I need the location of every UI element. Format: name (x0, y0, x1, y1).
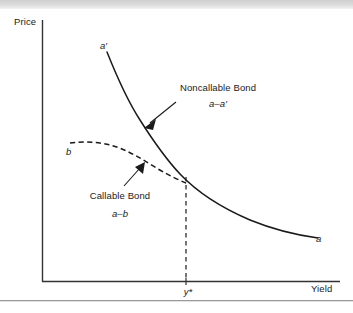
chart-canvas (0, 0, 353, 300)
figure-page: Price Yield y* a′ a b Noncallable Bond a… (0, 0, 353, 313)
annotation-callable-subtitle: a–b (112, 209, 128, 219)
annotation-noncallable-title: Noncallable Bond (180, 83, 256, 93)
noncallable-annotation-arrow-shaft (150, 102, 176, 123)
y-axis-label: Price (14, 17, 36, 27)
curve-label-a-prime: a′ (100, 41, 107, 51)
price-yield-chart: Price Yield y* a′ a b Noncallable Bond a… (0, 0, 353, 300)
noncallable-annotation-arrow-head (144, 119, 156, 130)
curve-label-b: b (66, 147, 71, 157)
callable-annotation-arrow-shaft (124, 168, 140, 186)
bottom-divider-highlight (0, 301, 353, 302)
annotation-callable-title: Callable Bond (90, 191, 150, 201)
x-axis-label: Yield (311, 284, 332, 294)
annotation-noncallable-subtitle: a–a′ (209, 99, 227, 109)
curve-label-a: a (316, 234, 321, 244)
x-tick-label-y-star: y* (184, 287, 192, 297)
noncallable-bond-curve (107, 52, 318, 238)
